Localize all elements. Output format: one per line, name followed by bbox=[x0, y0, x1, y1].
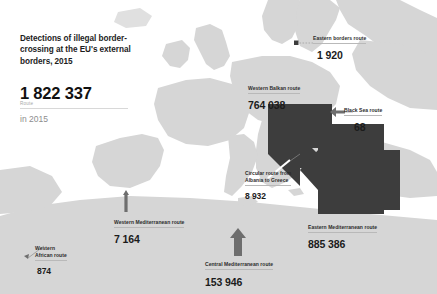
route-value-eastern-borders: 1 920 bbox=[317, 49, 366, 61]
route-label-eastern-mediterranean: Eastern Mediterranean route bbox=[308, 224, 377, 233]
route-label-circular-albania: Circular route from Albania to Greece bbox=[245, 170, 291, 186]
route-label-western-african: Western African route bbox=[35, 245, 67, 261]
route-label-black-sea: Black Sea route bbox=[344, 107, 382, 116]
route-callout-western-mediterranean: Western Mediterranean route 7 164 bbox=[114, 210, 184, 245]
route-value-eastern-mediterranean: 885 386 bbox=[308, 238, 377, 250]
route-label-western-balkan: Western Balkan route bbox=[248, 85, 300, 94]
route-label-central-mediterranean: Central Mediterranean route bbox=[205, 261, 273, 270]
route-label-eastern-borders: Eastern borders route bbox=[313, 35, 366, 44]
route-value-black-sea: 68 bbox=[354, 121, 382, 133]
route-label-western-african-line2: African route bbox=[35, 252, 67, 258]
route-label-circular-albania-line2: Albania to Greece bbox=[245, 177, 288, 183]
total-year-label: in 2015 bbox=[20, 114, 48, 124]
route-value-western-balkan: 764 038 bbox=[248, 99, 300, 111]
route-value-circular-albania: 8 932 bbox=[245, 191, 291, 201]
route-callout-circular-albania: Circular route from Albania to Greece 8 … bbox=[245, 168, 291, 201]
route-callout-eastern-mediterranean: Eastern Mediterranean route 885 386 bbox=[308, 215, 377, 250]
total-detections-caption: Route bbox=[20, 101, 33, 106]
route-value-central-mediterranean: 153 946 bbox=[205, 276, 273, 288]
infographic-root: Detections of illegal border-crossing at… bbox=[0, 0, 437, 294]
route-label-circular-albania-line1: Circular route from bbox=[245, 170, 291, 176]
total-divider bbox=[20, 108, 128, 109]
route-label-western-african-line1: Western bbox=[35, 245, 55, 251]
route-value-western-mediterranean: 7 164 bbox=[114, 233, 184, 245]
route-value-western-african: 874 bbox=[37, 266, 67, 276]
route-callout-western-balkan: Western Balkan route 764 038 bbox=[248, 76, 300, 111]
page-title: Detections of illegal border-crossing at… bbox=[20, 33, 152, 67]
route-callout-black-sea: Black Sea route 68 bbox=[344, 98, 382, 133]
title-block: Detections of illegal border-crossing at… bbox=[20, 33, 152, 67]
route-callout-eastern-borders: Eastern borders route 1 920 bbox=[313, 26, 366, 61]
route-label-western-mediterranean: Western Mediterranean route bbox=[114, 219, 184, 228]
route-callout-central-mediterranean: Central Mediterranean route 153 946 bbox=[205, 252, 273, 287]
route-callout-western-african: Western African route 874 bbox=[35, 243, 67, 276]
